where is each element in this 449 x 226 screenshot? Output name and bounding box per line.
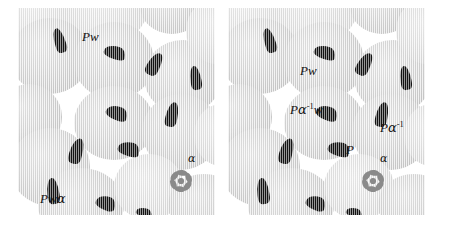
label-term: P	[290, 102, 298, 117]
label-term: P	[300, 63, 308, 78]
label-term: w	[314, 102, 323, 117]
figure-root: PwPwαα PwPα-1wPα-1Pα	[0, 0, 449, 226]
label-left-pw: Pw	[82, 30, 99, 43]
left-panel-stage: PwPwαα	[18, 8, 215, 215]
label-term: P	[40, 191, 48, 206]
alpha-star-icon	[166, 166, 196, 196]
label-right-painvw: Pα-1w	[290, 102, 323, 116]
label-exponent: -1	[397, 119, 404, 129]
label-term: P	[380, 120, 388, 135]
label-term: w	[90, 29, 99, 44]
label-alpha: α	[188, 152, 195, 165]
label-term: P	[82, 29, 90, 44]
label-term: P	[346, 142, 354, 157]
label-alpha: α	[380, 152, 387, 165]
label-right-painv: Pα-1	[380, 120, 404, 134]
label-left-pwa: Pwα	[40, 192, 65, 205]
label-right-pw: Pw	[300, 64, 317, 77]
label-alpha: α	[388, 120, 397, 135]
left-panel: PwPwαα	[18, 8, 215, 215]
label-right-p: P	[346, 143, 354, 156]
right-panel: PwPα-1wPα-1Pα	[228, 8, 425, 215]
label-alpha: α	[57, 191, 66, 206]
label-alpha: α	[298, 102, 307, 117]
alpha-star-icon	[358, 166, 388, 196]
right-panel-stage: PwPα-1wPα-1Pα	[228, 8, 425, 215]
label-term: w	[308, 63, 317, 78]
label-left-alpha: α	[188, 153, 195, 164]
label-right-alpha: α	[380, 153, 387, 164]
label-term: w	[48, 191, 57, 206]
label-exponent: -1	[307, 101, 314, 111]
